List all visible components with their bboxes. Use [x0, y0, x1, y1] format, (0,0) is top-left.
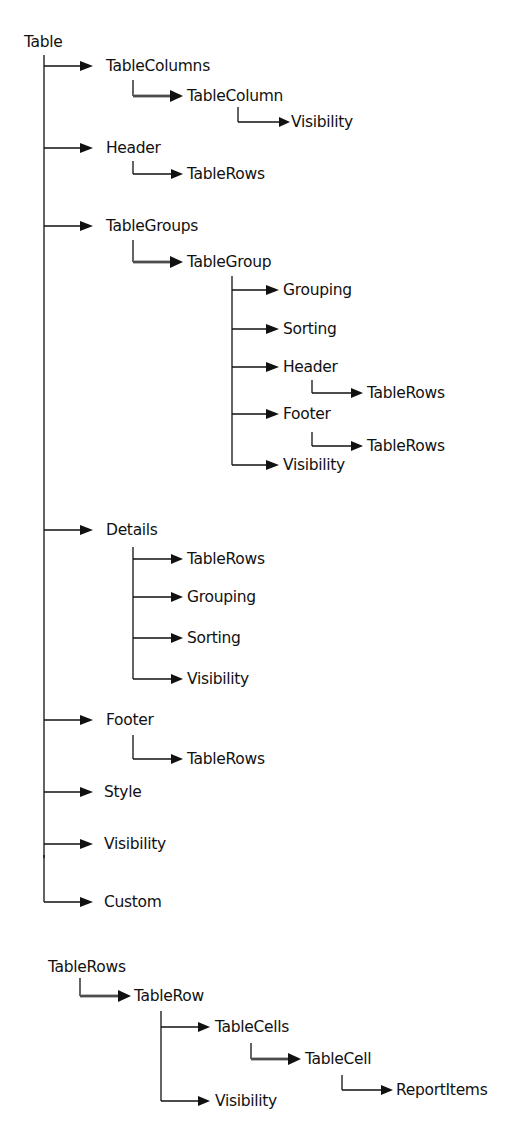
node-header-tablerows: TableRows: [187, 165, 265, 183]
node-style: Style: [104, 783, 141, 801]
node-tablecell: TableCell: [305, 1050, 371, 1068]
node-tablegroups: TableGroups: [106, 217, 198, 235]
table-hierarchy-diagram: Table TableColumns TableColumn Visibilit…: [0, 0, 528, 1139]
node-footer-tablerows: TableRows: [187, 750, 265, 768]
node-group-grouping: Grouping: [283, 281, 352, 299]
node-group-sorting: Sorting: [283, 320, 337, 338]
node-tablecolumn-visibility: Visibility: [291, 113, 353, 131]
node-details-visibility: Visibility: [187, 670, 249, 688]
node-group-footer: Footer: [283, 405, 331, 423]
node-visibility: Visibility: [104, 835, 166, 853]
node-tablecells: TableCells: [215, 1018, 289, 1036]
node-tablerows-root: TableRows: [48, 958, 126, 976]
node-tablecolumns: TableColumns: [106, 57, 210, 75]
node-details: Details: [106, 521, 158, 539]
node-details-tablerows: TableRows: [187, 550, 265, 568]
node-header: Header: [106, 139, 161, 157]
node-custom: Custom: [104, 893, 162, 911]
node-details-sorting: Sorting: [187, 629, 241, 647]
node-tablerow: TableRow: [134, 987, 204, 1005]
node-group-header-tablerows: TableRows: [367, 384, 445, 402]
node-group-footer-tablerows: TableRows: [367, 437, 445, 455]
node-footer: Footer: [106, 711, 154, 729]
node-details-grouping: Grouping: [187, 588, 256, 606]
node-tablegroup: TableGroup: [187, 253, 271, 271]
node-tablerow-visibility: Visibility: [215, 1092, 277, 1110]
node-group-header: Header: [283, 358, 338, 376]
node-tablecolumn: TableColumn: [187, 87, 283, 105]
node-reportitems: ReportItems: [396, 1081, 487, 1099]
node-group-visibility: Visibility: [283, 456, 345, 474]
node-table: Table: [24, 33, 63, 51]
